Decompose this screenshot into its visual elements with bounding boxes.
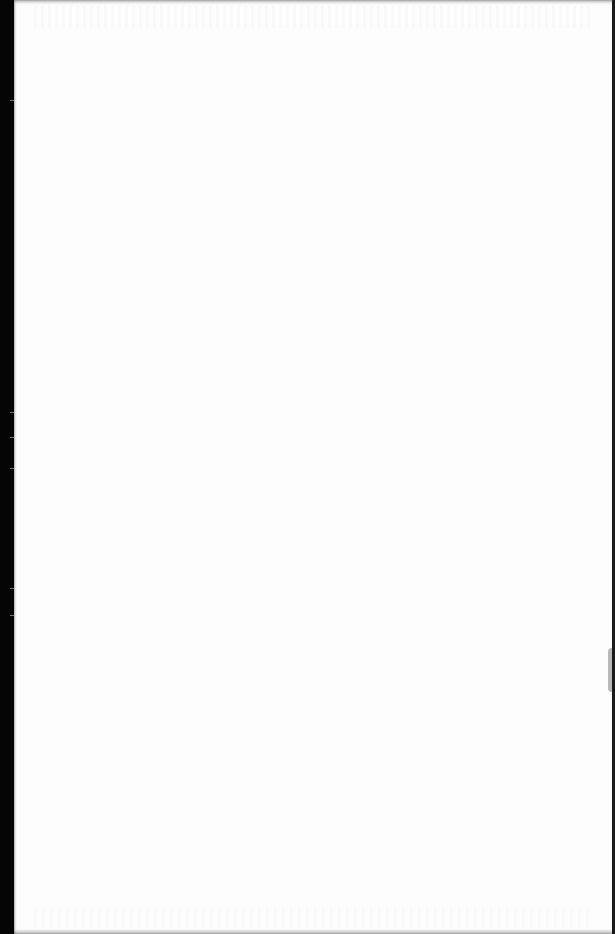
scanner-left-margin	[0, 0, 14, 934]
scanned-document	[0, 0, 615, 934]
bottom-edge-shadow	[14, 929, 612, 934]
bottom-bleed-through	[34, 907, 594, 929]
blank-page	[14, 0, 612, 934]
top-bleed-through	[34, 6, 594, 28]
